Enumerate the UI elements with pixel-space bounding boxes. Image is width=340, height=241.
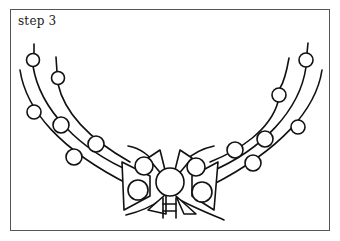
bow-bead	[135, 157, 153, 175]
bead	[66, 149, 82, 165]
bead	[53, 117, 69, 133]
bow-bead	[128, 180, 148, 200]
bead	[272, 88, 286, 102]
right-beads	[227, 53, 313, 171]
bow-bead	[192, 182, 212, 202]
bead	[27, 105, 41, 119]
left-beads	[27, 54, 105, 166]
bead	[245, 155, 261, 171]
center-bow	[122, 146, 224, 220]
bow-bead	[187, 158, 205, 176]
bead	[52, 72, 65, 85]
bead	[299, 53, 313, 67]
garland-drawing	[0, 0, 340, 241]
bead	[227, 142, 243, 158]
bow-center-bead	[156, 168, 184, 196]
bead	[88, 136, 104, 152]
bead	[257, 131, 273, 147]
bead	[291, 120, 305, 134]
bead	[27, 54, 40, 67]
